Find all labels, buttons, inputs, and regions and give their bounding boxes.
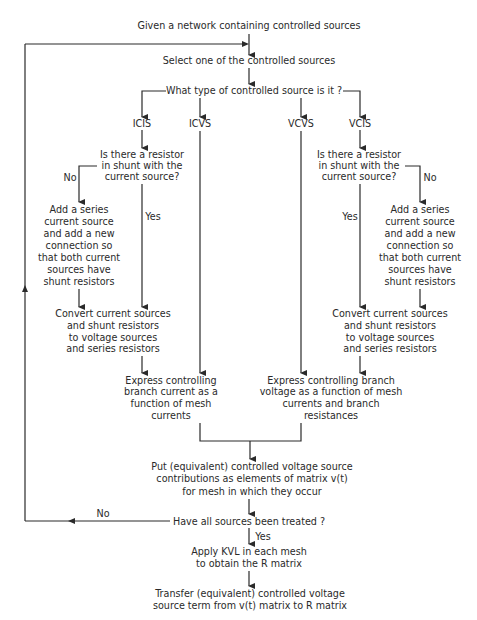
node-express-voltage: Express controlling branch voltage as a … [260,375,403,421]
svg-text:and shunt resistors: and shunt resistors [67,320,159,331]
svg-text:current source?: current source? [105,171,180,182]
node-icis: ICIS [133,118,151,129]
svg-text:that both current: that both current [379,252,461,263]
node-put-equivalent: Put (equivalent) controlled voltage sour… [151,461,353,497]
svg-text:Transfer (equivalent) controll: Transfer (equivalent) controlled voltage [154,588,345,599]
svg-text:currents and branch: currents and branch [282,398,379,409]
node-vcvs: VCVS [288,118,314,129]
svg-text:Put (equivalent) controlled vo: Put (equivalent) controlled voltage sour… [151,461,353,472]
svg-text:for mesh in which they occur: for mesh in which they occur [182,486,321,497]
svg-text:Convert current sources: Convert current sources [55,308,171,319]
svg-text:Express controlling branch: Express controlling branch [267,375,395,386]
svg-text:sources have: sources have [388,264,452,275]
svg-text:to voltage sources: to voltage sources [69,332,157,343]
node-convert-left: Convert current sources and shunt resist… [55,308,171,354]
svg-text:What type of controlled source: What type of controlled source is it ? [166,85,342,96]
svg-text:voltage as a function of mesh: voltage as a function of mesh [260,386,403,397]
flowchart: Given a network containing controlled so… [0,0,477,620]
node-shunt-question-right: Is there a resistor in shunt with the cu… [317,149,401,182]
svg-text:in shunt with the: in shunt with the [319,160,400,171]
svg-text:currents: currents [151,410,191,421]
svg-text:to voltage sources: to voltage sources [346,332,434,343]
node-add-series-left: Add a series current source and add a ne… [38,204,120,287]
edge-label-yes-left: Yes [144,211,161,222]
svg-text:and series resistors: and series resistors [66,343,159,354]
svg-text:current source: current source [44,216,114,227]
svg-text:Apply KVL in each mesh: Apply KVL in each mesh [191,546,307,557]
edge-label-yes-down: Yes [254,531,271,542]
node-select: Select one of the controlled sources [163,55,335,66]
svg-text:shunt resistors: shunt resistors [44,276,115,287]
svg-text:in shunt with the: in shunt with the [102,160,183,171]
svg-text:and series resistors: and series resistors [343,343,436,354]
svg-text:function of mesh: function of mesh [131,398,212,409]
svg-text:resistances: resistances [304,410,358,421]
node-express-current: Express controlling branch current as a … [124,375,218,421]
svg-text:Given a network containing con: Given a network containing controlled so… [137,20,360,31]
node-type-question: What type of controlled source is it ? [166,85,342,96]
node-all-treated-question: Have all sources been treated ? [173,516,325,527]
edge-label-no-left: No [63,172,76,183]
svg-text:source term from v(t) matrix t: source term from v(t) matrix to R matrix [153,600,347,611]
node-vcis: VCIS [349,118,371,129]
svg-text:that both current: that both current [38,252,120,263]
svg-text:current source?: current source? [322,171,397,182]
svg-text:and shunt resistors: and shunt resistors [344,320,436,331]
edge-label-no-right: No [423,172,436,183]
svg-text:shunt resistors: shunt resistors [385,276,456,287]
svg-text:to obtain the R matrix: to obtain the R matrix [196,558,302,569]
svg-text:current source: current source [385,216,455,227]
svg-text:Express controlling: Express controlling [125,375,216,386]
svg-text:Is there a resistor: Is there a resistor [317,149,401,160]
svg-text:Is there a resistor: Is there a resistor [100,149,184,160]
node-apply-kvl: Apply KVL in each mesh to obtain the R m… [191,546,307,569]
edge-label-yes-right: Yes [341,211,358,222]
svg-text:Add a series: Add a series [391,204,450,215]
node-shunt-question-left: Is there a resistor in shunt with the cu… [100,149,184,182]
node-add-series-right: Add a series current source and add a ne… [379,204,461,287]
svg-text:and add a new: and add a new [385,228,456,239]
node-transfer: Transfer (equivalent) controlled voltage… [153,588,347,611]
node-icvs: ICVS [189,118,211,129]
node-start: Given a network containing controlled so… [137,20,360,31]
edge-label-no-loop: No [96,508,109,519]
svg-text:sources have: sources have [47,264,111,275]
svg-text:and add a new: and add a new [44,228,115,239]
svg-text:branch current as a: branch current as a [124,386,218,397]
svg-text:Select one of the controlled s: Select one of the controlled sources [163,55,335,66]
svg-text:contributions as elements of m: contributions as elements of matrix v(t) [156,473,347,484]
svg-text:connection so: connection so [46,240,113,251]
svg-text:Add a series: Add a series [50,204,109,215]
svg-text:connection so: connection so [387,240,454,251]
svg-text:Convert current sources: Convert current sources [332,308,448,319]
node-convert-right: Convert current sources and shunt resist… [332,308,448,354]
